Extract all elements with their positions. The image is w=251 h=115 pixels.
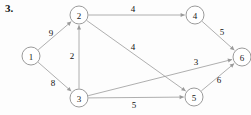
arrowhead-3-to-2 [77, 25, 81, 29]
edge-3-to-5 [88, 97, 183, 98]
edge-4-to-6 [202, 21, 234, 50]
node-2-label: 2 [77, 11, 82, 21]
edge-weight-2-5: 4 [131, 42, 136, 52]
nodes-group: 123456 [22, 6, 251, 107]
edge-weight-1-2: 9 [49, 28, 54, 38]
node-6-label: 6 [240, 53, 245, 63]
edge-weight-3-6: 3 [194, 57, 199, 67]
arrowhead-3-to-6 [228, 58, 233, 62]
node-4-label: 4 [193, 11, 198, 21]
edge-weight-4-6: 5 [220, 27, 225, 37]
arrowhead-3-to-5 [180, 95, 184, 99]
edges-group [38, 15, 234, 98]
arrowhead-2-to-4 [181, 13, 185, 17]
edge-weight-1-3: 8 [51, 78, 56, 88]
edge-weight-2-4: 4 [131, 4, 136, 14]
edge-3-to-6 [88, 59, 232, 95]
arrowheads-group [67, 13, 235, 99]
node-3-label: 3 [77, 94, 82, 104]
graph-figure: 3. 123456 982443556 [0, 0, 251, 115]
node-1-label: 1 [29, 52, 34, 62]
edge-weight-3-5: 5 [132, 100, 137, 110]
edge-1-to-2 [38, 22, 71, 50]
graph-canvas: 123456 982443556 [0, 0, 251, 115]
edge-2-to-5 [87, 21, 186, 92]
edge-weight-3-2: 2 [70, 51, 75, 61]
node-5-label: 5 [192, 93, 197, 103]
arrowhead-2-to-5 [181, 87, 186, 91]
edge-weight-5-6: 6 [217, 75, 222, 85]
